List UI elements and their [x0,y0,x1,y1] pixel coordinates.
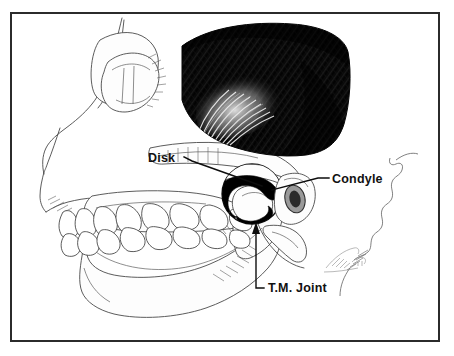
label-disk: Disk [148,151,175,165]
label-tm-joint: T.M. Joint [268,281,328,295]
illustration-canvas: Disk Condyle T.M. Joint [0,0,454,356]
label-condyle: Condyle [332,172,383,186]
tmj-illustration-figure: Disk Condyle T.M. Joint [0,0,454,356]
